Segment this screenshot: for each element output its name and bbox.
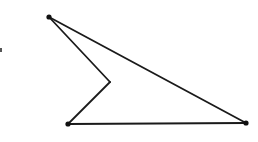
- stray-marks: [0, 48, 2, 52]
- polygon-edges: [49, 17, 246, 124]
- edge-top-left-to-reflex: [49, 17, 110, 82]
- stray-dot-mark: [0, 48, 2, 52]
- vertex-bottom-right: [243, 120, 248, 125]
- vertex-bottom-left: [65, 121, 70, 126]
- diagram-canvas: [0, 0, 258, 142]
- vertex-top-left: [46, 14, 51, 19]
- edge-bottom-left-to-bottom-right: [68, 123, 246, 124]
- edge-bottom-right-to-top-left: [49, 17, 246, 123]
- edge-reflex-to-bottom-left: [68, 82, 110, 124]
